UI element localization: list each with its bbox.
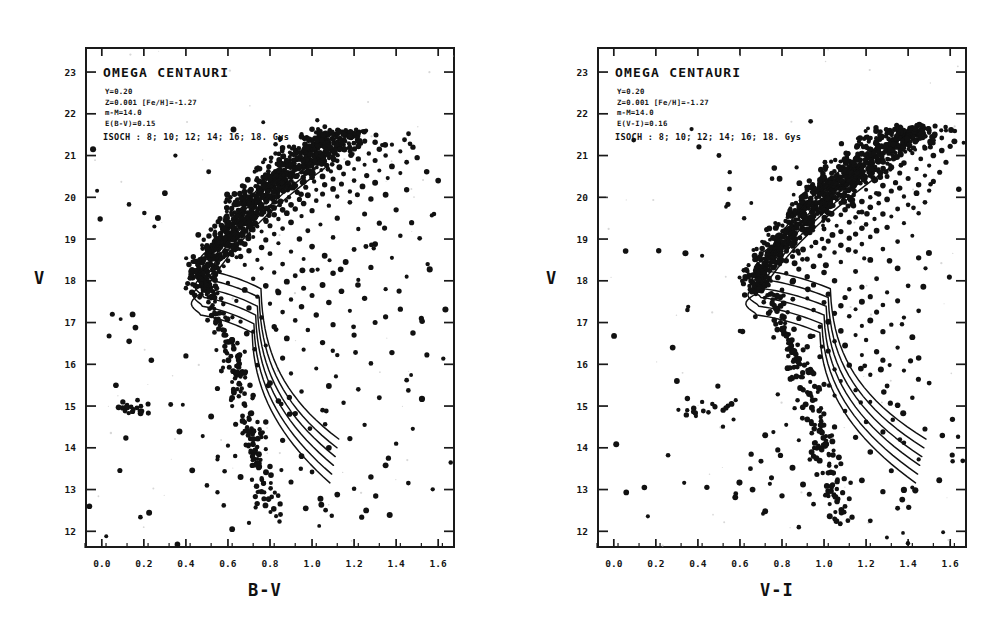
- svg-text:1.6: 1.6: [430, 558, 447, 569]
- svg-text:1.6: 1.6: [942, 558, 959, 569]
- panel-b-v: 0.00.20.40.60.81.01.21.41.61213141516171…: [0, 0, 495, 633]
- svg-text:13: 13: [65, 484, 77, 495]
- svg-text:22: 22: [577, 108, 588, 119]
- svg-text:1.2: 1.2: [346, 558, 363, 569]
- plot-canvas-right: 0.00.20.40.60.81.01.21.41.61213141516171…: [495, 0, 990, 633]
- svg-text:19: 19: [577, 234, 589, 245]
- svg-text:0.0: 0.0: [93, 558, 110, 569]
- svg-text:0.4: 0.4: [177, 558, 194, 569]
- svg-text:12: 12: [577, 526, 588, 537]
- svg-text:23: 23: [65, 67, 77, 78]
- svg-text:20: 20: [65, 192, 77, 203]
- x-axis-label-left: B-V: [248, 580, 282, 600]
- svg-text:21: 21: [577, 150, 589, 161]
- svg-text:14: 14: [577, 442, 589, 453]
- x-axis-label-right: V-I: [760, 580, 794, 600]
- svg-text:m-M=14.0: m-M=14.0: [617, 108, 654, 117]
- svg-text:ISOCH : 8; 10; 12; 14; 16; 18: ISOCH : 8; 10; 12; 14; 16; 18. Gys: [103, 132, 289, 142]
- svg-text:1.2: 1.2: [858, 558, 875, 569]
- svg-text:Z=0.001 [Fe/H]=-1.27: Z=0.001 [Fe/H]=-1.27: [105, 98, 197, 107]
- svg-text:23: 23: [577, 67, 589, 78]
- svg-text:0.2: 0.2: [647, 558, 664, 569]
- svg-text:0.4: 0.4: [689, 558, 706, 569]
- svg-text:1.0: 1.0: [815, 558, 832, 569]
- svg-text:0.8: 0.8: [773, 558, 790, 569]
- figure-cmd-pair: 0.00.20.40.60.81.01.21.41.61213141516171…: [0, 0, 990, 633]
- svg-text:1.0: 1.0: [303, 558, 320, 569]
- svg-text:0.8: 0.8: [261, 558, 278, 569]
- svg-text:1.4: 1.4: [900, 558, 917, 569]
- svg-text:E(B-V)=0.15: E(B-V)=0.15: [105, 119, 156, 128]
- svg-text:15: 15: [65, 401, 77, 412]
- svg-text:0.6: 0.6: [219, 558, 236, 569]
- plot-canvas-left: 0.00.20.40.60.81.01.21.41.61213141516171…: [0, 0, 495, 633]
- y-axis-label-left: V: [34, 268, 45, 288]
- svg-text:13: 13: [577, 484, 589, 495]
- svg-text:21: 21: [65, 150, 77, 161]
- svg-text:18: 18: [577, 275, 589, 286]
- svg-text:0.0: 0.0: [605, 558, 622, 569]
- svg-text:OMEGA CENTAURI: OMEGA CENTAURI: [615, 65, 741, 80]
- svg-text:m-M=14.0: m-M=14.0: [105, 108, 142, 117]
- svg-text:14: 14: [65, 442, 77, 453]
- svg-text:OMEGA CENTAURI: OMEGA CENTAURI: [103, 65, 229, 80]
- panel-v-i: 0.00.20.40.60.81.01.21.41.61213141516171…: [495, 0, 990, 633]
- svg-text:ISOCH : 8; 10; 12; 14; 16; 18: ISOCH : 8; 10; 12; 14; 16; 18. Gys: [615, 132, 801, 142]
- svg-text:16: 16: [65, 359, 77, 370]
- svg-text:12: 12: [65, 526, 76, 537]
- svg-text:17: 17: [65, 317, 76, 328]
- svg-text:Y=0.20: Y=0.20: [617, 87, 645, 96]
- svg-text:19: 19: [65, 234, 77, 245]
- svg-text:1.4: 1.4: [388, 558, 405, 569]
- svg-text:15: 15: [577, 401, 589, 412]
- svg-text:0.2: 0.2: [135, 558, 152, 569]
- svg-text:Y=0.20: Y=0.20: [105, 87, 133, 96]
- svg-text:E(V-I)=0.16: E(V-I)=0.16: [617, 119, 668, 128]
- svg-text:0.6: 0.6: [731, 558, 748, 569]
- svg-text:16: 16: [577, 359, 589, 370]
- svg-text:20: 20: [577, 192, 589, 203]
- svg-text:22: 22: [65, 108, 76, 119]
- y-axis-label-right: V: [546, 268, 557, 288]
- svg-text:Z=0.001 [Fe/H]=-1.27: Z=0.001 [Fe/H]=-1.27: [617, 98, 709, 107]
- svg-text:18: 18: [65, 275, 77, 286]
- svg-text:17: 17: [577, 317, 588, 328]
